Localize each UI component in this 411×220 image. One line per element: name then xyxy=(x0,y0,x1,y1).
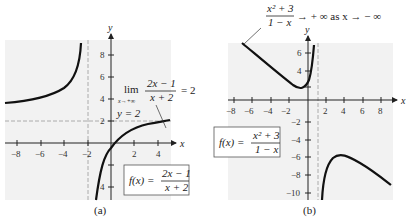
formula-lhs-b: f(x) = xyxy=(219,136,244,149)
note-denominator-b: 1 − x xyxy=(268,16,291,28)
asymptote-label-a: y = 2 xyxy=(116,107,141,119)
limit-subscript: x→+∞ xyxy=(117,98,136,104)
x-tick-label: 2 xyxy=(132,149,137,159)
formula-lhs-a: f(x) = xyxy=(129,174,154,187)
limit-rhs: = 2 xyxy=(181,84,195,96)
y-tick-label: 4 xyxy=(297,66,302,76)
y-axis-label-a: y xyxy=(107,22,113,33)
figure: x y −8 −6 −4 −2 2 4 8 6 4 2 4 lim x→+∞ 2… xyxy=(0,0,411,220)
y-tick-label: 8 xyxy=(100,50,105,60)
x-tick-label: 4 xyxy=(156,149,161,159)
x-tick-label: 8 xyxy=(378,106,383,116)
y-tick-label: 4 xyxy=(100,182,105,192)
formula-numerator-b: x² + 3 xyxy=(252,129,280,141)
caption-b: (b) xyxy=(303,204,316,217)
formula-numerator-a: 2x − 1 xyxy=(162,167,191,179)
x-tick-label: −8 xyxy=(11,149,21,159)
x-tick-label: −2 xyxy=(82,149,92,159)
note-rhs-b: → + ∞ as x → − ∞ xyxy=(297,10,381,22)
x-tick-label: −4 xyxy=(58,149,68,159)
y-tick-label: −8 xyxy=(291,170,301,180)
x-tick-label: −6 xyxy=(35,149,45,159)
y-axis-label-b: y xyxy=(304,24,310,35)
y-tick-label: −6 xyxy=(291,152,301,162)
x-tick-label: 4 xyxy=(341,106,346,116)
note-leader-line-b xyxy=(244,28,261,44)
formula-denominator-a: x + 2 xyxy=(164,181,189,193)
x-tick-label: −6 xyxy=(244,106,254,116)
y-tick-label: 2 xyxy=(100,116,105,126)
panel-a: x y −8 −6 −4 −2 2 4 8 6 4 2 4 lim x→+∞ 2… xyxy=(5,22,195,217)
note-numerator-b: x² + 3 xyxy=(266,2,294,14)
limit-denominator: x + 2 xyxy=(149,91,174,103)
x-tick-label: 6 xyxy=(360,106,365,116)
y-tick-label: −10 xyxy=(286,188,301,198)
caption-a: (a) xyxy=(94,204,107,217)
x-tick-label: 2 xyxy=(323,106,328,116)
x-tick-label: −8 xyxy=(226,106,236,116)
limit-word: lim xyxy=(124,83,139,95)
x-axis-label-a: x xyxy=(179,138,185,149)
x-tick-label: −2 xyxy=(281,106,291,116)
y-tick-label: −2 xyxy=(291,117,301,127)
x-axis-label-b: x xyxy=(400,95,406,106)
limit-numerator: 2x − 1 xyxy=(147,77,176,89)
panel-b: x y −8 −6 −4 −2 2 4 6 8 6 4 −2 −4 −6 −8 … xyxy=(214,2,406,217)
y-tick-label: 6 xyxy=(100,72,105,82)
x-tick-label: −4 xyxy=(263,106,273,116)
formula-denominator-b: 1 − x xyxy=(255,143,278,155)
y-tick-label: 6 xyxy=(297,48,302,58)
y-tick-label: −4 xyxy=(291,135,301,145)
y-tick-label: 4 xyxy=(100,94,105,104)
